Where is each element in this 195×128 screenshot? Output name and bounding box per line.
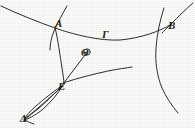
main-arc-through-alpha-gamma-beta — [1, 6, 172, 40]
point-label-alpha: Α — [55, 18, 62, 29]
curve-epsilon-to-right-edge — [63, 67, 132, 83]
point-label-delta: Δ — [20, 113, 27, 124]
point-label-epsilon: Ε — [58, 81, 65, 92]
geometry-figure: Α Γ Β Θ Ε Δ — [0, 0, 195, 128]
point-label-gamma: Γ — [102, 29, 109, 40]
point-label-beta: Β — [168, 20, 175, 31]
figure-canvas — [0, 0, 195, 128]
point-label-theta: Θ — [81, 48, 89, 58]
curve-alpha-to-epsilon — [55, 27, 64, 84]
secant-line-at-beta — [162, 3, 193, 33]
